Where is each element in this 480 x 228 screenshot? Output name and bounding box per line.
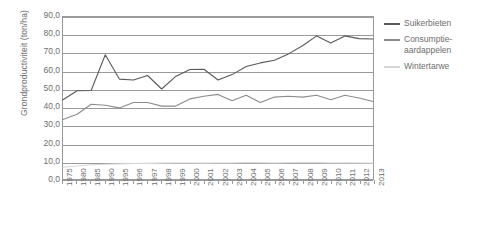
x-tick-mark [190, 180, 191, 184]
y-tick-label: 0,0 [26, 175, 60, 184]
x-tick-mark [331, 180, 332, 184]
x-tick-label: 2002 [222, 168, 230, 186]
x-tick-mark [289, 180, 290, 184]
legend-item[interactable]: Wintertarwe [384, 61, 480, 72]
y-tick-label: 50,0 [26, 84, 60, 93]
legend-item-label: Consumptie-aardappelen [404, 34, 478, 56]
grondproductiviteit-line-chart: Grondproductiviteit (ton/ha) 90,080,070,… [0, 0, 480, 228]
x-tick-mark [303, 180, 304, 184]
x-tick-mark [175, 180, 176, 184]
y-tick-label: 80,0 [26, 29, 60, 38]
x-tick-label: 1998 [165, 168, 173, 186]
plot-area [62, 16, 374, 180]
x-tick-label: 2013 [378, 168, 386, 186]
x-tick-label: 1997 [151, 168, 159, 186]
x-tick-mark [232, 180, 233, 184]
x-tick-label: 2001 [207, 168, 215, 186]
y-tick-label: 30,0 [26, 120, 60, 129]
x-tick-mark [90, 180, 91, 184]
x-tick-label: 2005 [264, 168, 272, 186]
x-tick-mark [76, 180, 77, 184]
x-tick-label: 2009 [321, 168, 329, 186]
x-tick-label: 2010 [335, 168, 343, 186]
legend-line-swatch-icon [384, 23, 400, 25]
y-tick-label: 60,0 [26, 66, 60, 75]
x-tick-mark [360, 180, 361, 184]
y-tick-label: 90,0 [26, 11, 60, 20]
x-tick-mark [133, 180, 134, 184]
x-tick-label: 1985 [94, 168, 102, 186]
y-tick-label: 40,0 [26, 102, 60, 111]
series-line [63, 36, 373, 100]
y-tick-label: 20,0 [26, 139, 60, 148]
x-tick-label: 1975 [66, 168, 74, 186]
series-lines [63, 17, 373, 179]
x-tick-label: 1980 [80, 168, 88, 186]
x-tick-label: 1990 [108, 168, 116, 186]
legend-line-swatch-icon [384, 39, 400, 41]
y-tick-label: 10,0 [26, 157, 60, 166]
x-tick-mark [261, 180, 262, 184]
x-tick-label: 1996 [136, 168, 144, 186]
legend-item[interactable]: Consumptie-aardappelen [384, 34, 480, 56]
x-tick-mark [218, 180, 219, 184]
series-line [63, 94, 373, 119]
legend-line-swatch-icon [384, 66, 400, 68]
x-tick-mark [119, 180, 120, 184]
legend-item-label: Suikerbieten [404, 18, 451, 29]
x-tick-label: 2007 [292, 168, 300, 186]
x-tick-label: 2012 [363, 168, 371, 186]
legend: SuikerbietenConsumptie-aardappelenWinter… [384, 18, 480, 77]
y-tick-label: 70,0 [26, 47, 60, 56]
x-tick-label: 1999 [179, 168, 187, 186]
x-tick-mark [147, 180, 148, 184]
x-tick-mark [204, 180, 205, 184]
x-tick-mark [105, 180, 106, 184]
x-tick-mark [346, 180, 347, 184]
legend-item-label: Wintertarwe [404, 61, 449, 72]
x-tick-label: 2008 [307, 168, 315, 186]
x-axis-tick-labels: 1975198019851990199519961997199819992000… [62, 180, 374, 228]
x-tick-mark [275, 180, 276, 184]
x-tick-label: 2006 [278, 168, 286, 186]
series-line [63, 162, 373, 167]
y-axis-tick-labels: 90,080,070,060,050,040,030,020,010,00,0 [24, 0, 60, 228]
x-tick-mark [246, 180, 247, 184]
x-tick-label: 1995 [122, 168, 130, 186]
x-tick-label: 2000 [193, 168, 201, 186]
x-tick-label: 2003 [236, 168, 244, 186]
x-tick-mark [62, 180, 63, 184]
x-tick-mark [374, 180, 375, 184]
x-tick-label: 2004 [250, 168, 258, 186]
x-tick-label: 2011 [349, 169, 357, 186]
x-tick-mark [161, 180, 162, 184]
x-tick-mark [317, 180, 318, 184]
legend-item[interactable]: Suikerbieten [384, 18, 480, 29]
